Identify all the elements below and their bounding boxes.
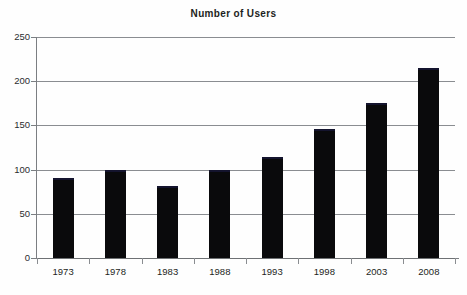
y-tick-mark-250 [31, 37, 37, 38]
chart-title: Number of Users [0, 8, 467, 19]
x-tick-mark [455, 258, 456, 264]
x-tick-label-2003: 2003 [354, 266, 400, 277]
bar-top-cap [105, 170, 126, 172]
bar-top-cap [366, 103, 387, 105]
bar-1998[interactable] [314, 129, 335, 258]
x-tick-mark [142, 258, 143, 264]
bar-top-cap [209, 170, 230, 172]
y-tick-mark-100 [31, 170, 37, 171]
bar-top-cap [262, 157, 283, 159]
x-tick-label-2008: 2008 [406, 266, 452, 277]
y-tick-label: 200 [2, 75, 30, 86]
x-tick-label-1988: 1988 [197, 266, 243, 277]
bar-top-cap [53, 178, 74, 180]
bar-top-cap [157, 186, 178, 188]
x-tick-mark [89, 258, 90, 264]
gridline-150 [37, 125, 455, 126]
bar-top-cap [418, 68, 439, 70]
bar-chart-figure: Number of Users 050100150200250 19731978… [0, 0, 467, 295]
x-tick-label-1993: 1993 [249, 266, 295, 277]
x-tick-label-1983: 1983 [145, 266, 191, 277]
y-tick-mark-200 [31, 81, 37, 82]
bar-1988[interactable] [209, 170, 230, 258]
bar-2008[interactable] [418, 68, 439, 258]
gridline-100 [37, 170, 455, 171]
y-tick-mark-150 [31, 125, 37, 126]
x-tick-label-1978: 1978 [92, 266, 138, 277]
bar-1993[interactable] [262, 157, 283, 258]
bar-1978[interactable] [105, 170, 126, 258]
x-tick-mark [37, 258, 38, 264]
plot-area [37, 37, 455, 258]
x-tick-mark [298, 258, 299, 264]
bar-2003[interactable] [366, 103, 387, 258]
x-tick-label-1973: 1973 [40, 266, 86, 277]
y-tick-label: 100 [2, 164, 30, 175]
gridline-250 [37, 37, 455, 38]
x-tick-label-1998: 1998 [301, 266, 347, 277]
bar-top-cap [314, 129, 335, 131]
y-tick-label: 50 [2, 208, 30, 219]
y-tick-label: 250 [2, 31, 30, 42]
x-tick-mark [351, 258, 352, 264]
x-tick-mark [403, 258, 404, 264]
x-tick-mark [194, 258, 195, 264]
y-tick-label: 0 [2, 252, 30, 263]
x-tick-mark [246, 258, 247, 264]
y-tick-label: 150 [2, 119, 30, 130]
gridline-50 [37, 214, 455, 215]
y-tick-mark-50 [31, 214, 37, 215]
bar-1973[interactable] [53, 178, 74, 258]
bar-1983[interactable] [157, 186, 178, 258]
gridline-200 [37, 81, 455, 82]
